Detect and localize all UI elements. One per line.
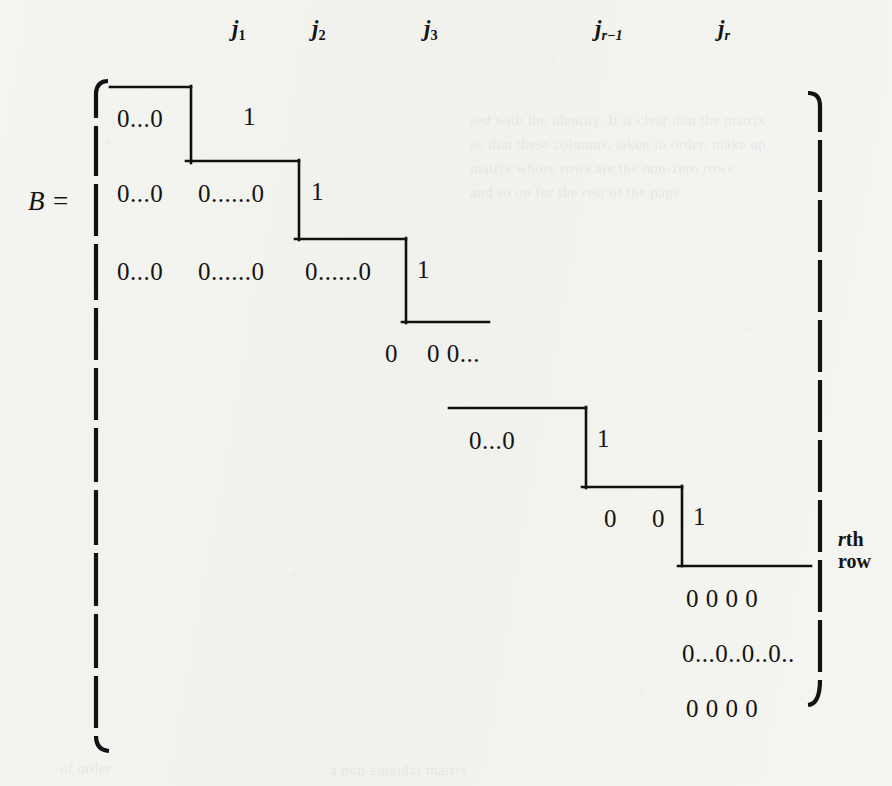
entry-row5-zeros: 0...0 — [469, 427, 515, 455]
entry-row4-zero: 0 — [385, 340, 398, 368]
entry-row1-one: 1 — [243, 103, 256, 131]
staircase-lines — [110, 86, 811, 566]
entry-row6-zero-2: 0 — [652, 505, 665, 533]
ghost-text-line-3: matrix whose rows are the non-zero rows — [470, 160, 734, 177]
entry-row2-zeros-2: 0......0 — [198, 180, 265, 208]
column-label-j1: j1 — [232, 16, 246, 44]
matrix-figure: j1 j2 j3 jr−1 jr B = — [0, 0, 892, 786]
column-label-j2: j2 — [312, 16, 326, 44]
rth-row-suffix: th — [846, 528, 864, 550]
ghost-text-line-6: a non-singular matrix — [330, 762, 468, 779]
entry-row3-zeros-3: 0......0 — [305, 258, 372, 286]
rth-row-annotation: rth row — [838, 528, 871, 573]
rth-row-italic-r: r — [838, 528, 846, 550]
entry-tail-row-3: 0 0 0 0 — [686, 695, 758, 723]
entry-row6-zero-1: 0 — [604, 505, 617, 533]
entry-row4-zeros-trail: 0 0... — [427, 340, 480, 368]
rth-row-line-2: row — [838, 550, 871, 572]
left-bracket — [96, 81, 109, 751]
ghost-text-line-4: and so on for the rest of the page — [470, 184, 680, 201]
rth-row-line-1: rth — [838, 528, 864, 550]
entry-row2-one: 1 — [311, 178, 324, 206]
ghost-text-line-5: of order — [60, 760, 111, 777]
entry-row3-one: 1 — [417, 256, 430, 284]
entry-row5-one: 1 — [597, 425, 610, 453]
entry-row1-zeros-1: 0...0 — [117, 105, 163, 133]
ghost-text-line-2: so that these columns, taken in order, m… — [470, 136, 766, 153]
entry-row2-zeros-1: 0...0 — [117, 180, 163, 208]
entry-row3-zeros-2: 0......0 — [198, 258, 265, 286]
column-label-jr: jr — [718, 16, 730, 44]
entry-tail-row-2: 0...0..0..0.. — [682, 640, 795, 668]
entry-row3-zeros-1: 0...0 — [117, 258, 163, 286]
column-label-jr-minus-1: jr−1 — [595, 16, 623, 44]
ghost-text-line-1: sed with the identity. It is clear that … — [470, 112, 766, 129]
entry-tail-row-1: 0 0 0 0 — [686, 585, 758, 613]
column-label-j3: j3 — [424, 16, 438, 44]
matrix-name-label: B = — [28, 186, 69, 217]
entry-row6-one: 1 — [693, 503, 706, 531]
right-bracket — [808, 93, 820, 705]
